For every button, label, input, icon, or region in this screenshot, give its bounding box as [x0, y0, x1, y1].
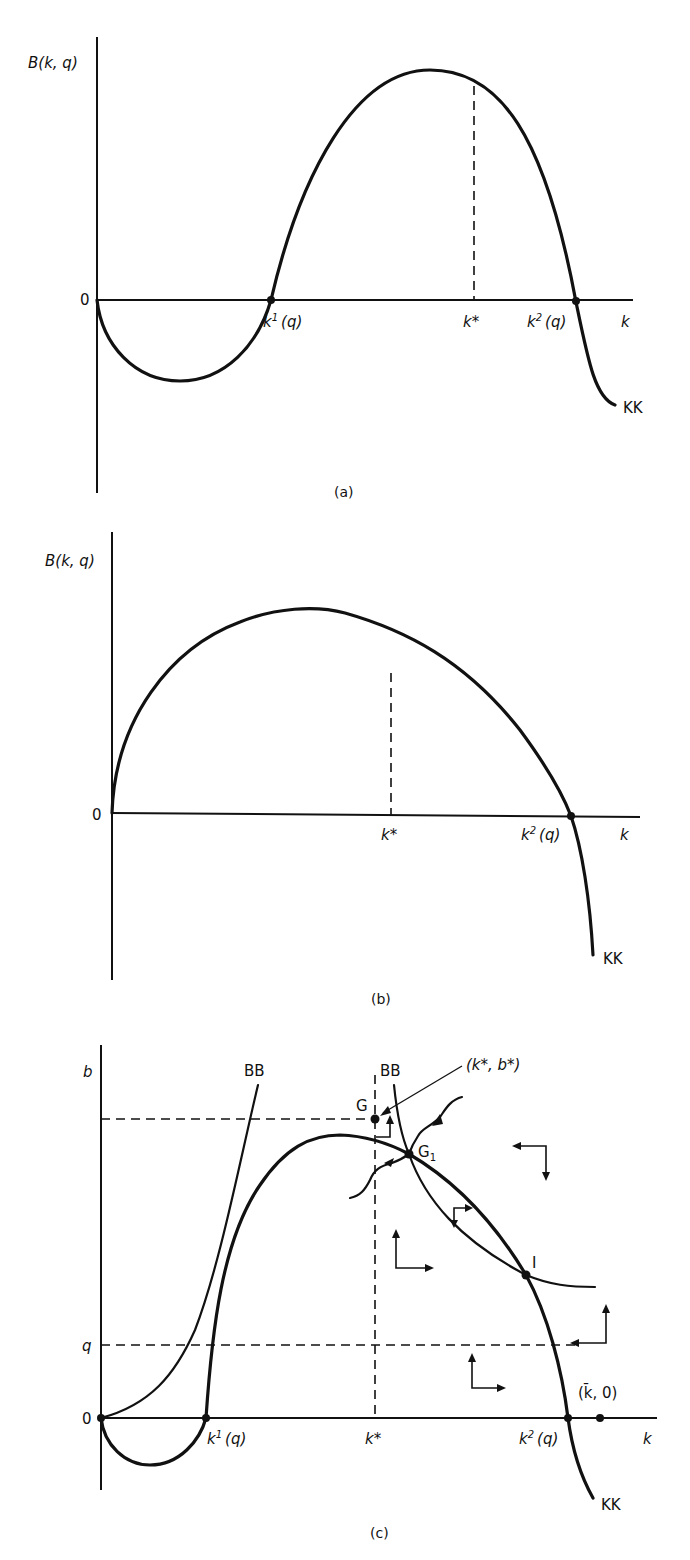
g1-label: G1 [418, 1143, 436, 1163]
arrowhead [512, 1142, 521, 1150]
arrowhead [542, 1172, 550, 1181]
x-axis-label: k [620, 826, 630, 844]
x-axis-label: k [643, 1430, 653, 1448]
phase-arrow-near-g [376, 1122, 390, 1137]
kbar-label: (k̄, 0) [578, 1383, 617, 1402]
g-label: G [356, 1097, 368, 1115]
arrowhead [602, 1304, 610, 1313]
arrowhead [392, 1229, 400, 1238]
k2-label: k2(q) [519, 1429, 558, 1448]
bb-right-curve [394, 1085, 595, 1287]
kstar-bstar-label: (k*, b*) [466, 1056, 520, 1074]
k2-point [564, 1414, 572, 1422]
k2-label: k2(q) [521, 825, 560, 844]
y-axis-label: B(k, q) [45, 552, 95, 570]
figure-canvas: B(k, q) 0 k1(q) k* k2(q) k KK (a) B(k, q… [0, 0, 690, 1560]
kstar-label: k* [463, 313, 480, 331]
k1-label: k1(q) [263, 312, 302, 331]
k2-point [572, 297, 580, 305]
bb-left-curve [101, 1085, 258, 1418]
g-point [371, 1115, 380, 1124]
panel-c: b q 0 k1(q) k* k2(q) k (k̄, 0) BB BB KK … [82, 1045, 657, 1541]
panel-caption: (a) [334, 484, 354, 500]
origin-label: 0 [92, 806, 102, 824]
origin-point [97, 1414, 105, 1422]
origin-label: 0 [80, 291, 90, 309]
arrowhead [497, 1384, 506, 1392]
arrowhead [468, 1353, 476, 1362]
kk-curve [97, 70, 615, 405]
panel-b: B(k, q) 0 k* k2(q) k KK (b) [45, 532, 640, 1007]
k1-point [202, 1414, 210, 1422]
i-point [522, 1271, 531, 1280]
k2-label: k2(q) [527, 312, 566, 331]
phase-arrow-lower [472, 1360, 498, 1388]
kbar-point [596, 1414, 604, 1422]
kstar-label: k* [381, 826, 398, 844]
kk-label: KK [623, 399, 644, 417]
phase-arrow-right [578, 1312, 606, 1343]
saddle-path-upper [409, 1097, 462, 1154]
i-label: I [532, 1254, 536, 1272]
y-axis-label: b [83, 1063, 93, 1081]
bb-left-label: BB [244, 1062, 265, 1080]
q-label: q [82, 1337, 92, 1355]
bb-right-label: BB [380, 1062, 401, 1080]
arrowhead [386, 1115, 394, 1124]
kk-label: KK [603, 950, 624, 968]
phase-arrow-between-curves [454, 1208, 466, 1222]
kstar-label: k* [365, 1430, 382, 1448]
kk-curve [112, 609, 593, 955]
saddle-path-lower [350, 1154, 409, 1198]
arrowhead [425, 1264, 434, 1272]
x-axis [112, 813, 640, 817]
x-axis-label: k [621, 313, 631, 331]
arrowhead [380, 1106, 391, 1116]
g1-point [405, 1150, 414, 1159]
arrowhead [570, 1339, 579, 1347]
phase-arrow-upper-right [519, 1146, 546, 1174]
origin-label: 0 [82, 1410, 92, 1428]
panel-caption: (b) [371, 991, 391, 1007]
y-axis-label: B(k, q) [28, 54, 78, 72]
k2-point [567, 812, 575, 820]
k1-label: k1(q) [207, 1429, 246, 1448]
panel-a: B(k, q) 0 k1(q) k* k2(q) k KK (a) [28, 37, 644, 500]
kk-label: KK [601, 1496, 622, 1514]
k1-point [267, 296, 275, 304]
panel-caption: (c) [370, 1525, 389, 1541]
phase-arrow-middle [396, 1236, 426, 1268]
